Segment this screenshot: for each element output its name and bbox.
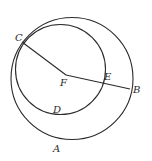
label-e: E xyxy=(103,71,112,82)
label-a: A xyxy=(52,143,60,154)
tangent-circles-diagram: C F E B D A xyxy=(0,0,152,161)
label-d: D xyxy=(52,104,61,115)
label-f: F xyxy=(59,77,68,88)
label-b: B xyxy=(132,84,140,95)
outer-circle xyxy=(11,18,133,140)
label-c: C xyxy=(15,32,23,43)
segment-fb xyxy=(66,75,130,89)
segment-cf xyxy=(22,42,66,75)
inner-circle xyxy=(16,25,106,115)
diagram-canvas: C F E B D A xyxy=(0,0,152,161)
